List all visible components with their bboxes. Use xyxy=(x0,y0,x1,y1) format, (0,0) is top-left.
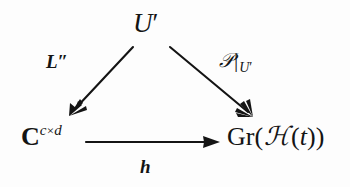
node-bottom-left-superscript: c×d xyxy=(40,122,62,138)
diagram-arrows-layer xyxy=(0,0,350,187)
node-bottom-left-complex-matrix-space: Cc×d xyxy=(21,123,62,150)
commutative-diagram-figure: U′ Cc×d Gr(ℋ(t)) L″ 𝒫|U′ h xyxy=(0,0,350,187)
edge-label-left-l-double-prime: L″ xyxy=(46,52,68,71)
restriction-subscript-prime: ′ xyxy=(249,60,252,75)
grassmannian-close-paren: ) xyxy=(316,122,325,151)
node-bottom-left-base: C xyxy=(21,122,40,151)
edge-label-bottom-h: h xyxy=(140,157,151,176)
argument-open-paren: ( xyxy=(291,122,300,151)
argument-variable-t: t xyxy=(300,122,307,151)
restriction-subscript-base: U xyxy=(239,60,249,75)
argument-close-paren: ) xyxy=(307,122,316,151)
superscript-rows: c xyxy=(40,122,47,138)
node-top-u-prime: U′ xyxy=(133,10,158,37)
node-top-base: U xyxy=(133,8,153,38)
script-h-symbol: ℋ xyxy=(263,121,291,151)
arrow-top-to-bottom-left xyxy=(69,47,133,116)
edge-label-left-double-prime: ″ xyxy=(58,51,69,72)
restriction-subscript: U′ xyxy=(239,60,252,75)
grassmannian-prefix: Gr( xyxy=(227,122,263,151)
edge-label-left-base: L xyxy=(46,51,58,72)
node-top-prime: ′ xyxy=(153,8,159,38)
superscript-cols: d xyxy=(54,122,62,138)
arrow-bottom-left-to-bottom-right xyxy=(86,136,220,148)
node-bottom-right-grassmannian: Gr(ℋ(t)) xyxy=(227,123,324,150)
script-p-symbol: 𝒫 xyxy=(219,48,233,72)
edge-label-right-p-restricted: 𝒫|U′ xyxy=(219,50,252,75)
